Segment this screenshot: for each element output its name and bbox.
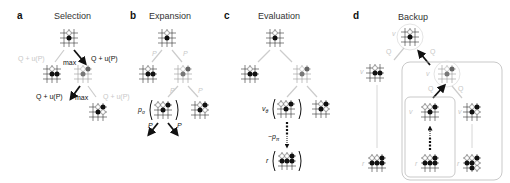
reward-label: r: [266, 157, 268, 164]
expansion-tree: [139, 29, 209, 133]
rollout-policy-label: ~pπ: [268, 133, 279, 142]
backup-v-mid: v: [426, 70, 430, 77]
backup-q-right-2: Q: [458, 85, 463, 92]
backup-r-right: r: [457, 160, 459, 167]
selection-max-label-2: max: [75, 94, 88, 101]
selection-second-right-label: Q + u(P): [103, 93, 130, 100]
backup-q-right: Q: [430, 48, 435, 55]
selection-tree: [43, 29, 107, 121]
backup-v-left: v: [360, 68, 364, 75]
expansion-out-right-label: P: [177, 122, 182, 129]
backup-v-root: v: [392, 30, 396, 37]
backup-r-mid: r: [415, 160, 417, 167]
evaluation-tree: [241, 29, 330, 171]
expansion-edge-label-right: P: [183, 50, 188, 57]
selection-left-edge-label: Q + u(P): [18, 55, 45, 62]
expansion-edge-label-left: P: [152, 50, 157, 57]
mcts-diagram: a Selection b Expansion c Evaluation d B…: [0, 0, 510, 183]
backup-v-leaf2: v: [458, 108, 462, 115]
policy-network-label: pσ: [138, 106, 145, 115]
diagram-graphics: [0, 0, 510, 183]
selection-max-label-1: max: [63, 59, 76, 66]
selection-second-left-label: Q + u(P): [36, 93, 63, 100]
backup-v-leaf: v: [409, 108, 413, 115]
selection-right-edge-label: Q + u(P): [91, 55, 118, 62]
expansion-edge-label-4: P: [198, 87, 203, 94]
backup-r-left: r: [362, 160, 364, 167]
expansion-out-left-label: P: [148, 122, 153, 129]
backup-q-left: Q: [386, 48, 391, 55]
expansion-edge-label-3: P: [170, 87, 175, 94]
value-network-label: vθ: [262, 105, 268, 114]
backup-q-left-2: Q: [428, 85, 433, 92]
